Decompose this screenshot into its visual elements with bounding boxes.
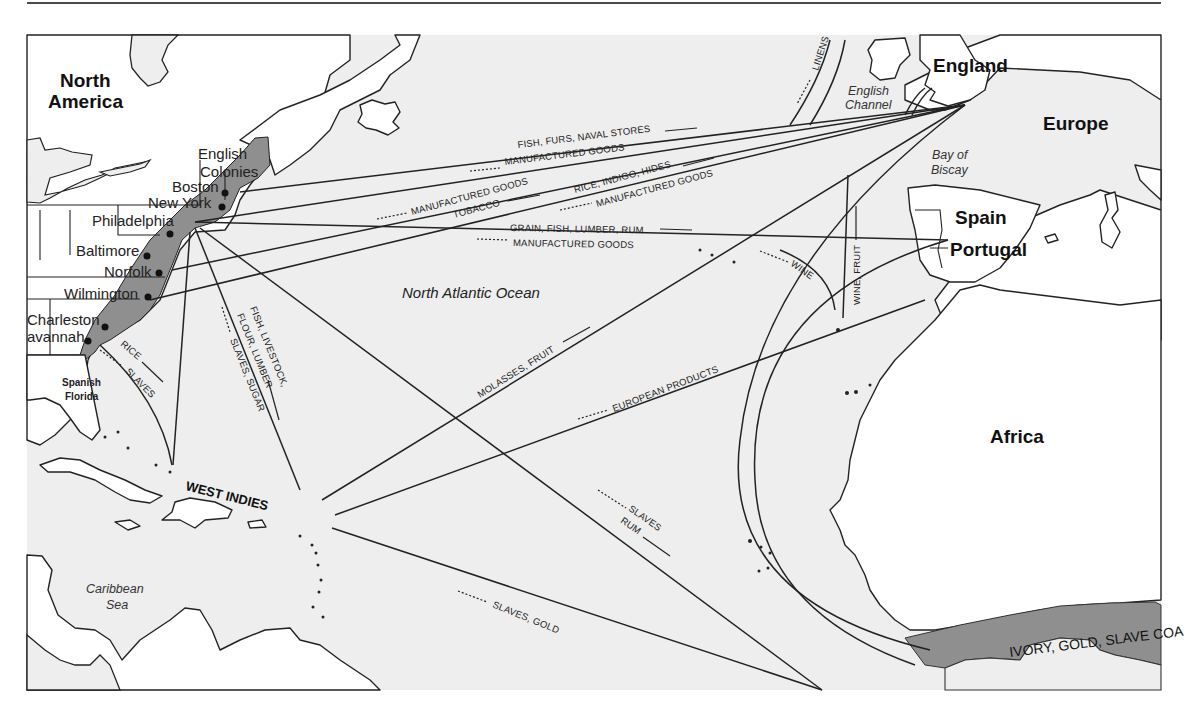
- label-boston: Boston: [172, 178, 219, 195]
- label-portugal: Portugal: [950, 239, 1027, 260]
- label-north: North: [60, 70, 111, 91]
- label-spanish: Spanish: [62, 377, 101, 388]
- label-new-york: New York: [148, 194, 212, 211]
- goods-wine-fruit: WINE, FRUIT: [851, 245, 862, 305]
- label-europe: Europe: [1043, 113, 1108, 134]
- trade-map: North America England Europe Spain Portu…: [0, 0, 1189, 720]
- label-florida: Florida: [65, 391, 99, 402]
- label-norfolk: Norfolk: [104, 263, 152, 280]
- goods-mfg-4: MANUFACTURED GOODS: [513, 237, 634, 250]
- label-charleston: Charleston: [27, 311, 100, 328]
- label-channel: Channel: [845, 98, 893, 112]
- goods-grain-fish: GRAIN, FISH, LUMBER, RUM: [510, 222, 644, 235]
- label-wilmington: Wilmington: [64, 285, 138, 302]
- label-baltimore: Baltimore: [76, 242, 139, 259]
- label-spain: Spain: [955, 207, 1007, 228]
- label-savannah: avannah: [27, 328, 85, 345]
- label-english-ch: English: [848, 84, 889, 98]
- label-north-atlantic: North Atlantic Ocean: [402, 284, 540, 301]
- label-caribbean: Caribbean: [86, 582, 144, 596]
- label-bay-of: Bay of: [932, 148, 969, 162]
- label-biscay: Biscay: [931, 163, 969, 177]
- label-sea: Sea: [106, 598, 128, 612]
- label-america: America: [48, 91, 123, 112]
- label-english: English: [198, 145, 247, 162]
- label-england: England: [933, 55, 1008, 76]
- puerto-rico: [248, 520, 266, 528]
- label-africa: Africa: [990, 426, 1044, 447]
- label-philadelphia: Philadelphia: [92, 212, 174, 229]
